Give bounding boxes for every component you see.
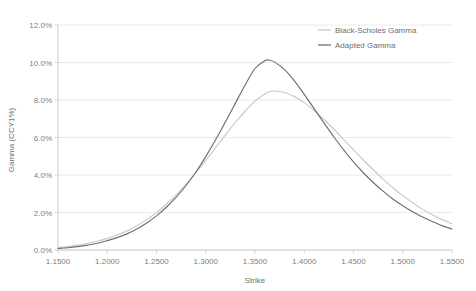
x-tick-label: 1.2000 xyxy=(95,257,120,266)
x-axis-title: Strike xyxy=(245,276,266,285)
y-tick-label: 10.0% xyxy=(29,59,52,68)
x-tick-label: 1.1500 xyxy=(46,257,71,266)
y-tick-label: 2.0% xyxy=(34,209,52,218)
y-tick-label: 8.0% xyxy=(34,96,52,105)
gridline-group xyxy=(58,25,452,250)
y-tick-label: 12.0% xyxy=(29,21,52,30)
gamma-chart: 0.0%2.0%4.0%6.0%8.0%10.0%12.0% 1.15001.2… xyxy=(0,0,476,291)
y-axis-tick-labels: 0.0%2.0%4.0%6.0%8.0%10.0%12.0% xyxy=(29,21,52,255)
x-tick-label: 1.5000 xyxy=(391,257,416,266)
x-tick-label: 1.2500 xyxy=(144,257,169,266)
y-tick-label: 6.0% xyxy=(34,134,52,143)
series-line-black-scholes-gamma xyxy=(58,91,452,248)
y-tick-label: 0.0% xyxy=(34,246,52,255)
legend-label-black-scholes-gamma: Black-Scholes Gamma xyxy=(335,26,417,35)
y-tick-label: 4.0% xyxy=(34,171,52,180)
legend-label-adapted-gamma: Adapted Gamma xyxy=(335,41,396,50)
y-axis-title: Gamma (CCY1%) xyxy=(7,107,16,172)
x-tick-label: 1.4000 xyxy=(292,257,317,266)
series-group xyxy=(58,60,452,249)
series-line-adapted-gamma xyxy=(58,60,452,249)
x-axis-tick-labels: 1.15001.20001.25001.30001.35001.40001.45… xyxy=(46,257,465,266)
tick-mark-group xyxy=(55,25,452,253)
x-tick-label: 1.5500 xyxy=(440,257,465,266)
chart-canvas: 0.0%2.0%4.0%6.0%8.0%10.0%12.0% 1.15001.2… xyxy=(0,0,476,291)
x-tick-label: 1.3000 xyxy=(194,257,219,266)
chart-legend: Black-Scholes GammaAdapted Gamma xyxy=(318,26,417,50)
x-tick-label: 1.4500 xyxy=(341,257,366,266)
x-tick-label: 1.3500 xyxy=(243,257,268,266)
